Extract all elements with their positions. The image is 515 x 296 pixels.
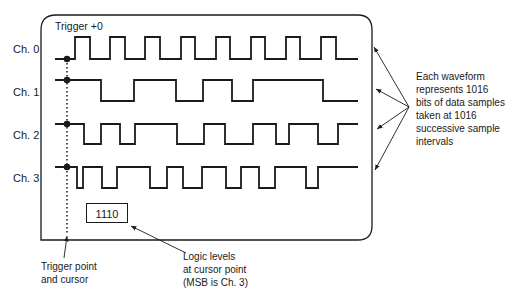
cursor-dot-ch0 [64,56,71,63]
channel-label-3: Ch. 3 [13,172,39,185]
cursor-dot-ch2 [64,121,71,128]
cursor-dot-ch1 [64,77,71,84]
waveform-note-line: bits of data samples [416,96,505,109]
logic-note-line: (MSB is Ch. 3) [183,276,248,289]
channel-label-2: Ch. 2 [13,129,39,142]
waveform-note-line: intervals [416,135,505,148]
logic-note-line: Logic levels [183,250,248,263]
waveform-note-line: successive sample [416,122,505,135]
trigger-note: Trigger point and cursor [41,260,97,286]
channel-label-0: Ch. 0 [13,43,39,56]
waveform-ch0 [55,37,358,59]
waveforms [55,37,358,188]
waveform-note-line: represents 1016 [416,83,505,96]
waveform-note-line: taken at 1016 [416,109,505,122]
trigger-offset-label: Trigger +0 [55,20,103,33]
waveform-note-arrows [374,47,409,170]
waveform-ch2 [55,124,358,144]
waveform-note-line: Each waveform [416,70,505,83]
waveform-ch3 [55,167,358,188]
trigger-arrow [64,236,67,258]
trigger-note-line: Trigger point [41,260,97,273]
channel-label-1: Ch. 1 [13,86,39,99]
logic-analyzer-diagram [0,0,515,296]
waveform-ch1 [55,80,358,101]
logic-note-line: at cursor point [183,263,248,276]
waveform-note: Each waveform represents 1016 bits of da… [416,70,505,148]
cursor-dot-ch3 [64,164,71,171]
logic-note: Logic levels at cursor point (MSB is Ch.… [183,250,248,289]
logic-level-readout: 1110 [86,203,128,223]
trigger-note-line: and cursor [41,273,97,286]
